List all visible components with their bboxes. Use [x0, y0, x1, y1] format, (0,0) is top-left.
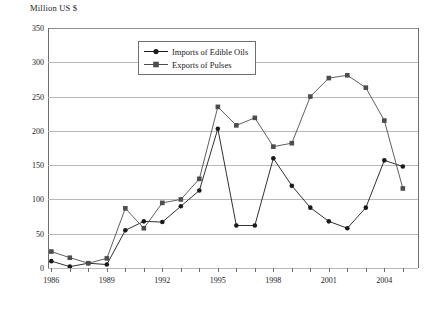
legend-marker-square-icon: [143, 59, 169, 70]
x-axis-tick: [199, 268, 200, 272]
chart-legend: Imports of Edible Oils Exports of Pulses: [138, 41, 256, 75]
data-point-marker: [142, 219, 147, 224]
data-point-marker: [308, 94, 313, 99]
x-axis-tick: [329, 268, 330, 272]
series-line: [51, 129, 403, 267]
data-point-marker: [68, 255, 73, 260]
x-axis-tick: [403, 268, 404, 272]
x-axis-tick: [70, 268, 71, 272]
x-axis-tick: [144, 268, 145, 272]
y-axis-tick-label: 350: [32, 24, 44, 33]
data-point-marker: [271, 156, 276, 161]
y-axis-tick-label: 0: [40, 264, 44, 273]
x-axis-tick: [162, 268, 163, 272]
data-point-marker: [401, 164, 406, 169]
data-point-marker: [382, 118, 387, 123]
y-axis-tick-label: 250: [32, 92, 44, 101]
legend-marker-circle-icon: [143, 46, 169, 57]
legend-item-imports-of-edible-oils: Imports of Edible Oils: [143, 45, 248, 58]
x-axis-tick: [51, 268, 52, 272]
chart-container: Million US $ 050100150200250300350 19861…: [0, 0, 441, 312]
data-point-marker: [105, 256, 110, 261]
x-axis-tick: [236, 268, 237, 272]
x-axis-tick-label: 1989: [99, 276, 115, 285]
x-axis-tick: [218, 268, 219, 272]
data-point-marker: [234, 223, 239, 228]
data-point-marker: [216, 127, 221, 132]
x-axis-tick: [347, 268, 348, 272]
x-axis-tick: [292, 268, 293, 272]
x-axis-tick: [181, 268, 182, 272]
data-point-marker: [49, 249, 54, 254]
data-point-marker: [253, 223, 258, 228]
data-point-marker: [271, 144, 276, 149]
y-axis-tick-label: 100: [32, 195, 44, 204]
x-axis-tick: [88, 268, 89, 272]
data-point-marker: [401, 186, 406, 191]
x-axis-tick: [366, 268, 367, 272]
plot-border-right: [418, 28, 419, 268]
x-axis-tick: [384, 268, 385, 272]
x-axis-tick: [273, 268, 274, 272]
y-axis-tick-label: 200: [32, 126, 44, 135]
gridline: [48, 268, 418, 269]
y-axis-tick-label: 300: [32, 58, 44, 67]
legend-label: Exports of Pulses: [172, 60, 232, 70]
data-point-marker: [234, 123, 239, 128]
x-axis-tick: [310, 268, 311, 272]
data-point-marker: [123, 228, 128, 233]
data-point-marker: [160, 220, 165, 225]
data-point-marker: [327, 76, 332, 81]
data-point-marker: [327, 219, 332, 224]
x-axis-tick: [125, 268, 126, 272]
x-axis-tick-label: 1995: [210, 276, 226, 285]
data-point-marker: [216, 105, 221, 110]
data-point-marker: [179, 204, 184, 209]
data-point-marker: [123, 206, 128, 211]
data-point-marker: [105, 262, 110, 267]
data-point-marker: [290, 141, 295, 146]
x-axis-tick-label: 1986: [43, 276, 59, 285]
data-point-marker: [142, 226, 147, 231]
x-axis-tick-label: 1998: [265, 276, 281, 285]
data-point-marker: [49, 259, 54, 264]
data-point-marker: [197, 177, 202, 182]
legend-item-exports-of-pulses: Exports of Pulses: [143, 58, 248, 71]
data-point-marker: [308, 205, 313, 210]
data-point-marker: [290, 183, 295, 188]
x-axis-tick-label: 1992: [154, 276, 170, 285]
data-point-marker: [345, 226, 350, 231]
x-axis-tick: [107, 268, 108, 272]
legend-label: Imports of Edible Oils: [172, 47, 248, 57]
data-point-marker: [345, 73, 350, 78]
data-point-marker: [68, 264, 73, 268]
data-point-marker: [364, 85, 369, 90]
data-point-marker: [160, 201, 165, 206]
y-axis-tick-label: 50: [36, 229, 44, 238]
data-point-marker: [179, 197, 184, 202]
series-line: [51, 75, 403, 263]
data-point-marker: [197, 188, 202, 193]
y-axis-tick-label: 150: [32, 161, 44, 170]
x-axis-tick-label: 2001: [321, 276, 337, 285]
data-point-marker: [86, 261, 91, 266]
x-axis-tick: [255, 268, 256, 272]
data-point-marker: [382, 158, 387, 163]
data-point-marker: [253, 116, 258, 121]
y-axis-tick-labels: 050100150200250300350: [0, 0, 44, 312]
x-axis-tick-label: 2004: [376, 276, 392, 285]
data-point-marker: [364, 205, 369, 210]
